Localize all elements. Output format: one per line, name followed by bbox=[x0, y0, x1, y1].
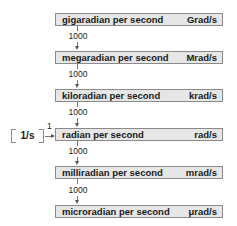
unit-symbol: Grad/s bbox=[187, 14, 217, 25]
conversion-factor: 1000 bbox=[66, 69, 90, 79]
arrow-right-icon bbox=[51, 134, 55, 138]
unit-name: gigaradian per second bbox=[62, 14, 163, 25]
unit-name: milliradian per second bbox=[62, 167, 163, 178]
arrow-down-icon bbox=[75, 123, 79, 127]
unit-box-radian: radian per second rad/s bbox=[55, 128, 223, 141]
arrow-down-icon bbox=[75, 200, 79, 204]
conversion-factor: 1000 bbox=[66, 146, 90, 156]
unit-symbol: krad/s bbox=[189, 90, 217, 101]
conversion-factor: 1000 bbox=[66, 107, 90, 117]
unit-symbol: mrad/s bbox=[186, 167, 217, 178]
unit-symbol: rad/s bbox=[194, 129, 217, 140]
unit-box-microradian: microradian per second μrad/s bbox=[55, 205, 223, 218]
unit-symbol: Mrad/s bbox=[186, 52, 217, 63]
arrow-down-icon bbox=[75, 161, 79, 165]
unit-name: kiloradian per second bbox=[62, 90, 160, 101]
base-unit-label: 1/s bbox=[11, 130, 44, 142]
unit-name: radian per second bbox=[62, 129, 144, 140]
connector-line bbox=[77, 179, 78, 184]
unit-symbol: μrad/s bbox=[188, 206, 217, 217]
arrow-down-icon bbox=[75, 46, 79, 50]
unit-name: microradian per second bbox=[62, 206, 170, 217]
unit-name: megaradian per second bbox=[62, 52, 169, 63]
unit-box-gigaradian: gigaradian per second Grad/s bbox=[55, 13, 223, 26]
unit-box-megaradian: megaradian per second Mrad/s bbox=[55, 51, 223, 64]
base-factor: 1 bbox=[47, 121, 52, 131]
conversion-factor: 1000 bbox=[66, 185, 90, 195]
base-unit-bracket: 1/s bbox=[11, 129, 44, 143]
conversion-factor: 1000 bbox=[66, 31, 90, 41]
unit-box-kiloradian: kiloradian per second krad/s bbox=[55, 89, 223, 102]
arrow-down-icon bbox=[75, 84, 79, 88]
unit-box-milliradian: milliradian per second mrad/s bbox=[55, 166, 223, 179]
